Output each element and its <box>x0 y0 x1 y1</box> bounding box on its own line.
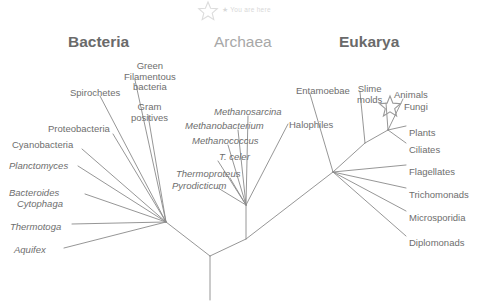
tree-branch <box>333 172 406 236</box>
taxon-label-halophiles: Halophiles <box>289 120 333 131</box>
taxon-label-animals: Animals <box>394 90 428 101</box>
taxon-label-slime-molds: Slime molds <box>357 84 382 105</box>
taxon-label-ciliates: Ciliates <box>409 145 440 156</box>
domain-title-eukarya: Eukarya <box>339 33 399 51</box>
taxon-label-plants: Plants <box>409 128 435 139</box>
taxon-label-gram-positives: Gram positives <box>131 102 168 123</box>
taxon-label-planctomyces: Planctomyces <box>9 161 68 172</box>
taxon-label-microsporidia: Microsporidia <box>409 213 466 224</box>
taxon-label-entamoebae: Entamoebae <box>296 86 350 97</box>
tree-branch <box>64 222 166 248</box>
domain-title-bacteria: Bacteria <box>68 33 129 51</box>
taxon-label-methanococcus: Methanococcus <box>192 136 259 147</box>
taxon-label-methanobacterium: Methanobacterium <box>185 121 264 132</box>
taxon-label-cyanobacteria: Cyanobacteria <box>12 140 73 151</box>
tree-branch <box>333 172 406 211</box>
tree-branch <box>386 103 388 130</box>
taxon-label-cytophaga: Cytophaga <box>17 199 63 210</box>
tree-branch <box>72 222 166 224</box>
tree-branch <box>333 165 406 172</box>
tree-branch <box>388 130 406 143</box>
tree-branch <box>166 222 210 256</box>
tree-branch <box>148 115 166 222</box>
tree-branch <box>310 94 333 172</box>
tree-branch <box>246 172 333 239</box>
taxon-label-thermoproteus: Thermoproteus <box>176 169 240 180</box>
taxon-label-proteobacteria: Proteobacteria <box>48 124 110 135</box>
taxon-label-trichomonads: Trichomonads <box>409 190 469 201</box>
taxon-label-methanosarcina: Methanosarcina <box>214 107 282 118</box>
taxon-label-flagellates: Flagellates <box>409 167 455 178</box>
taxon-label-spirochetes: Spirochetes <box>70 88 120 99</box>
tree-branch <box>333 143 365 172</box>
taxon-label-bacteroides: Bacteroides <box>9 188 59 199</box>
tree-branch <box>333 172 406 188</box>
taxon-label-pyrodicticum: Pyrodicticum <box>172 181 226 192</box>
tree-branch <box>388 126 406 130</box>
taxon-label-thermotoga: Thermotoga <box>10 222 61 233</box>
taxon-label-fungi: Fungi <box>404 102 428 113</box>
tree-branch <box>82 149 166 222</box>
tree-branch <box>113 134 166 222</box>
tree-branch <box>365 130 388 143</box>
taxon-label-t-celer: T. celer <box>219 152 250 163</box>
taxon-label-diplomonads: Diplomonads <box>409 238 464 249</box>
domain-title-archaea: Archaea <box>214 33 272 51</box>
taxon-label-green-filamentous: Green Filamentous bacteria <box>124 61 176 93</box>
tree-branch <box>78 166 166 222</box>
tree-branch <box>210 239 246 256</box>
taxon-label-aquifex: Aquifex <box>14 245 46 256</box>
tree-of-life-figure: ★ You are here BacteriaArchaeaEukarya Sp… <box>0 0 486 308</box>
star-icon-top <box>199 2 218 20</box>
